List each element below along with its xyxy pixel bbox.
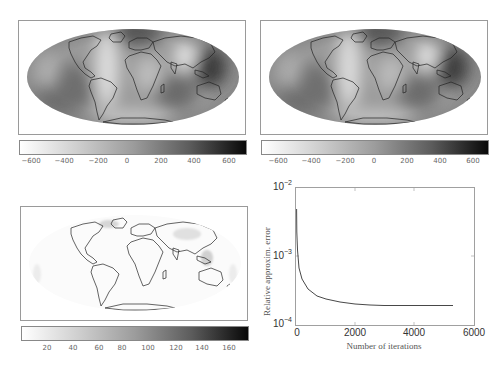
y-tick-1e-4: 10−4 — [268, 317, 292, 329]
colorbar-ticks-bottom-left: 20 40 60 80 100 120 140 160 — [21, 344, 247, 356]
colorbar-tick: 600 — [222, 157, 235, 165]
colorbar-tick: 80 — [118, 344, 127, 352]
map-plot-bottom-left — [20, 206, 248, 321]
error-curve — [296, 188, 474, 325]
colorbar-top-left — [19, 140, 247, 155]
colorbar-top-right — [261, 140, 489, 155]
colorbar-tick: 60 — [95, 344, 104, 352]
map-plot-top-left — [18, 20, 246, 135]
colorbar-tick: 100 — [141, 344, 154, 352]
colorbar-tick: −200 — [88, 157, 107, 165]
colorbar-tick: −400 — [301, 157, 320, 165]
world-map-heatmap — [19, 21, 245, 134]
colorbar-tick: −400 — [54, 157, 73, 165]
x-tick: 6000 — [463, 327, 485, 338]
colorbar-tick: 200 — [400, 157, 413, 165]
colorbar-tick: 400 — [187, 157, 200, 165]
colorbar-ticks-top-left: −600 −400 −200 0 200 400 600 — [19, 157, 245, 169]
x-tick: 0 — [294, 327, 300, 338]
colorbar-tick: 40 — [69, 344, 78, 352]
colorbar-tick: 120 — [169, 344, 182, 352]
colorbar-tick: 200 — [154, 157, 167, 165]
colorbar-tick: 0 — [372, 157, 376, 165]
colorbar-bottom-left — [21, 326, 249, 341]
colorbar-tick: −600 — [21, 157, 40, 165]
world-map-heatmap — [21, 207, 247, 320]
colorbar-tick: 20 — [43, 344, 52, 352]
x-tick: 2000 — [344, 327, 366, 338]
colorbar-tick: −200 — [335, 157, 354, 165]
map-plot-top-right — [260, 20, 488, 135]
colorbar-tick: 400 — [433, 157, 446, 165]
colorbar-tick: 140 — [195, 344, 208, 352]
colorbar-tick: 0 — [125, 157, 129, 165]
y-tick-1e-2: 10−2 — [268, 180, 292, 192]
x-axis-label: Number of iterations — [347, 341, 422, 351]
line-plot-area — [295, 187, 475, 326]
colorbar-tick: 600 — [466, 157, 479, 165]
x-tick: 4000 — [403, 327, 425, 338]
world-map-heatmap — [261, 21, 487, 134]
colorbar-ticks-top-right: −600 −400 −200 0 200 400 600 — [261, 157, 487, 169]
colorbar-tick: 160 — [222, 344, 235, 352]
y-axis-label: Relative approxim. error — [262, 227, 272, 316]
colorbar-tick: −600 — [268, 157, 287, 165]
